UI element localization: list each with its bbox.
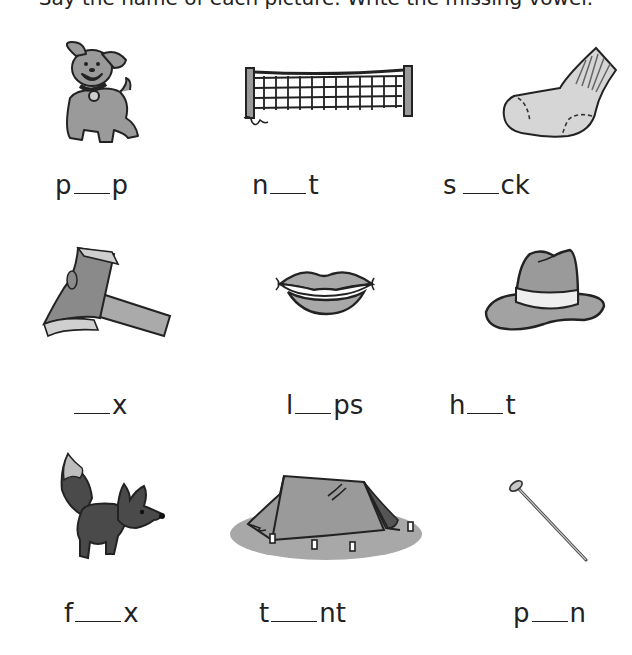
net-icon [240,64,416,128]
word-puzzle-net: nt [252,172,319,198]
sock-picture [488,44,618,140]
ax-picture [34,244,174,340]
answer-blank[interactable] [532,621,568,622]
fox-picture [58,450,170,562]
word-puzzle-lips: lps [286,392,363,418]
lips-icon [274,264,378,320]
hat-icon [480,244,610,332]
word-puzzle-tent: tnt [259,600,346,626]
answer-blank[interactable] [295,413,331,414]
word-puzzle-hat: ht [449,392,516,418]
net-picture [240,64,416,128]
answer-blank[interactable] [270,193,306,194]
word-puzzle-ax: x [72,392,127,418]
answer-blank[interactable] [74,193,110,194]
answer-blank[interactable] [467,413,503,414]
word-puzzle-pin: pn [513,600,586,626]
fox-icon [58,450,170,562]
lips-picture [274,264,378,320]
tent-picture [228,470,424,562]
answer-blank[interactable] [75,621,121,622]
word-puzzle-fox: fx [64,600,139,626]
answer-blank[interactable] [271,621,317,622]
hat-picture [480,244,610,332]
instruction-header-clipped: Say the name of each picture. Write the … [0,0,632,6]
pin-picture [504,476,594,566]
answer-blank[interactable] [74,413,110,414]
word-puzzle-sock: sck [443,172,530,198]
puppy-picture [50,38,140,146]
puppy-icon [50,38,140,146]
tent-icon [228,470,424,562]
word-puzzle-pup: pp [55,172,128,198]
answer-blank[interactable] [463,193,499,194]
pin-icon [504,476,594,566]
ax-icon [34,244,174,340]
sock-icon [488,44,618,140]
